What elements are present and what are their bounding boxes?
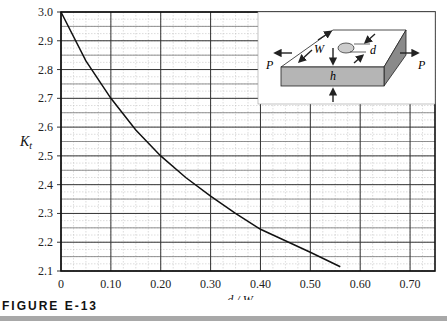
figure-caption: FIGURE E-13 <box>2 299 98 313</box>
svg-text:2.5: 2.5 <box>38 149 53 163</box>
svg-text:2.3: 2.3 <box>38 206 53 220</box>
svg-text:0: 0 <box>58 277 64 291</box>
svg-text:0.60: 0.60 <box>350 277 371 291</box>
svg-text:2.1: 2.1 <box>38 264 53 278</box>
stress-concentration-chart: 3.02.92.82.72.62.52.42.32.22.1 00.100.20… <box>0 0 447 300</box>
svg-text:0.70: 0.70 <box>400 277 421 291</box>
svg-text:0.50: 0.50 <box>300 277 321 291</box>
x-axis-ticks: 00.100.200.300.400.500.600.70 <box>58 277 421 291</box>
svg-text:0.30: 0.30 <box>200 277 221 291</box>
svg-text:P: P <box>265 58 274 72</box>
x-axis-label: d / W <box>227 293 253 300</box>
svg-text:0.40: 0.40 <box>250 277 271 291</box>
svg-text:0.10: 0.10 <box>100 277 121 291</box>
svg-text:d: d <box>370 43 377 57</box>
svg-text:P: P <box>417 58 426 72</box>
y-axis-label: Kt <box>19 134 32 151</box>
svg-text:2.9: 2.9 <box>38 34 53 48</box>
plate-inset: d W h P P <box>258 12 435 104</box>
svg-text:3.0: 3.0 <box>38 5 53 19</box>
svg-text:2.7: 2.7 <box>38 91 53 105</box>
svg-text:2.2: 2.2 <box>38 235 53 249</box>
hole-icon <box>338 43 354 53</box>
svg-text:h: h <box>330 69 336 83</box>
svg-text:2.4: 2.4 <box>38 178 53 192</box>
svg-text:2.8: 2.8 <box>38 63 53 77</box>
y-axis-ticks: 3.02.92.82.72.62.52.42.32.22.1 <box>38 5 53 278</box>
svg-text:W: W <box>314 42 325 56</box>
caption-rule <box>0 316 447 321</box>
svg-text:2.6: 2.6 <box>38 120 53 134</box>
svg-text:0.20: 0.20 <box>150 277 171 291</box>
